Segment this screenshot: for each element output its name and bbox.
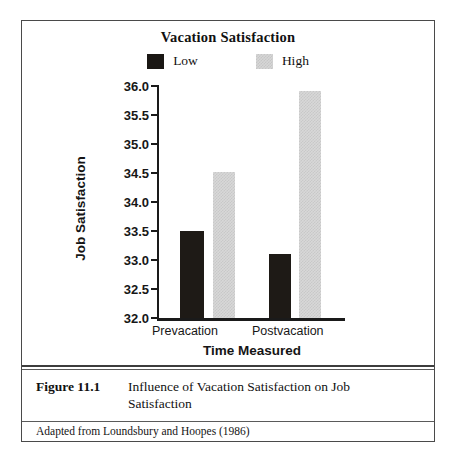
plot-area: Job Satisfaction 36.0 35.5 35.0 34.5 34.… bbox=[22, 21, 434, 365]
x-axis-line bbox=[157, 318, 345, 321]
y-tick-label-33-5: 33.5 bbox=[101, 225, 149, 238]
y-tick-mark-34-5 bbox=[151, 172, 158, 174]
y-tick-mark-35-5 bbox=[151, 114, 158, 116]
y-tick-mark-34-0 bbox=[151, 201, 158, 203]
y-tick-label-32-5: 32.5 bbox=[101, 283, 149, 296]
figure-caption: Figure 11.1 Influence of Vacation Satisf… bbox=[22, 373, 434, 423]
y-axis-title: Job Satisfaction bbox=[73, 139, 88, 279]
caption-rule-second bbox=[22, 369, 434, 370]
bars-layer bbox=[159, 85, 345, 318]
y-axis-tick-labels: 36.0 35.5 35.0 34.5 34.0 33.5 33.0 32.5 … bbox=[97, 21, 149, 365]
y-tick-mark-36-0 bbox=[151, 85, 158, 87]
x-tick-label-prevacation: Prevacation bbox=[152, 324, 218, 338]
figure-number: Figure 11.1 bbox=[36, 379, 128, 395]
y-tick-label-36-0: 36.0 bbox=[101, 80, 149, 93]
y-tick-label-32-0: 32.0 bbox=[101, 312, 149, 325]
bar-prevacation-high bbox=[213, 172, 235, 318]
y-tick-label-34-0: 34.0 bbox=[101, 196, 149, 209]
caption-rule-top bbox=[22, 365, 434, 367]
y-tick-mark-32-5 bbox=[151, 288, 158, 290]
caption-row: Figure 11.1 Influence of Vacation Satisf… bbox=[36, 379, 420, 413]
bar-prevacation-low bbox=[180, 231, 204, 318]
y-tick-mark-33-5 bbox=[151, 230, 158, 232]
y-tick-label-34-5: 34.5 bbox=[101, 167, 149, 180]
x-axis-title: Time Measured bbox=[122, 343, 382, 358]
bar-postvacation-low bbox=[269, 254, 291, 318]
y-tick-mark-33-0 bbox=[151, 259, 158, 261]
y-tick-mark-35-0 bbox=[151, 143, 158, 145]
figure-source-note: Adapted from Loundsbury and Hoopes (1986… bbox=[36, 425, 250, 437]
caption-rule-bottom bbox=[22, 421, 434, 422]
bar-postvacation-high bbox=[299, 91, 321, 318]
figure-box: Vacation Satisfaction Low High Job Satis… bbox=[21, 20, 435, 442]
y-tick-label-33-0: 33.0 bbox=[101, 254, 149, 267]
chart-panel: Vacation Satisfaction Low High Job Satis… bbox=[22, 21, 434, 365]
x-tick-label-postvacation: Postvacation bbox=[252, 324, 324, 338]
figure-caption-text: Influence of Vacation Satisfaction on Jo… bbox=[128, 379, 378, 413]
y-tick-label-35-5: 35.5 bbox=[101, 109, 149, 122]
y-tick-label-35-0: 35.0 bbox=[101, 138, 149, 151]
x-axis-tick-labels: Prevacation Postvacation bbox=[157, 324, 357, 344]
